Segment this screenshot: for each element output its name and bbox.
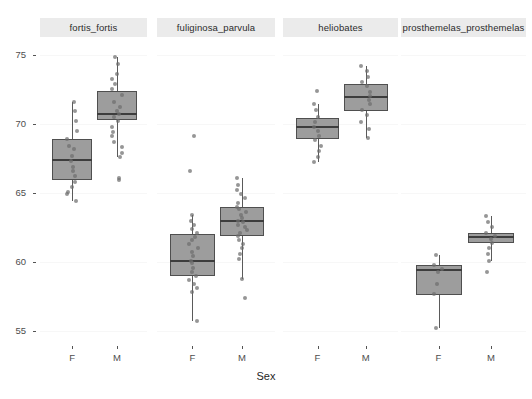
data-point [118,155,122,159]
grid-line [157,55,275,56]
y-tick-label: 55 [0,325,26,336]
data-point [191,266,195,270]
grid-line [157,331,275,332]
data-point [75,129,79,133]
grid-line [40,193,147,194]
data-point [490,225,494,229]
data-point [365,69,369,73]
data-point [71,165,75,169]
grid-line [40,331,147,332]
data-point [236,201,240,205]
data-point [116,62,120,66]
data-point [67,144,71,148]
data-point [312,160,316,164]
facet-strip-label: prosthemelas_prosthemelas [403,22,525,33]
data-point [244,210,248,214]
y-tick-label: 65 [0,187,26,198]
grid-line [283,55,398,56]
data-point [315,89,319,93]
facet-panel-fuliginosa-parvula [157,38,275,345]
y-tick-mark [33,331,36,332]
data-point [360,108,364,112]
data-point [317,149,321,153]
facet-strip-2: fuliginosa_parvula [157,18,275,37]
data-point [196,246,200,250]
data-point [120,145,124,149]
data-point [65,192,69,196]
data-point [190,270,194,274]
x-tick-mark [491,346,492,349]
data-point [120,151,124,155]
data-point [316,155,320,159]
data-point [316,129,320,133]
data-point [74,119,78,123]
x-tick-mark [117,346,118,349]
data-point [110,134,114,138]
data-point [367,127,371,131]
data-point [487,259,491,263]
facet-strip-3: heliobates [283,18,398,37]
data-point [490,241,494,245]
data-point [116,119,120,123]
y-tick-mark [33,193,36,194]
data-point [113,82,117,86]
data-point [243,296,247,300]
x-tick-label: M [359,352,373,363]
y-tick-label: 70 [0,118,26,129]
grid-line [283,262,398,263]
data-point [112,140,116,144]
data-point [359,64,363,68]
grid-line [40,124,147,125]
x-tick-label: M [235,352,249,363]
grid-line [40,55,147,56]
grid-line [283,331,398,332]
facet-strip-label: fuliginosa_parvula [177,22,255,33]
data-point [187,278,191,282]
facet-panel-fortis-fortis [40,38,147,345]
data-point [195,286,199,290]
data-point [73,180,77,184]
y-tick-mark [33,55,36,56]
x-tick-mark [72,346,73,349]
data-point [110,77,114,81]
data-point [312,102,316,106]
data-point [486,252,490,256]
x-tick-label: M [484,352,498,363]
data-point [235,188,239,192]
facet-strip-1: fortis_fortis [40,18,147,37]
data-point [74,199,78,203]
data-point [194,274,198,278]
grid-line [401,124,526,125]
y-tick-label: 60 [0,256,26,267]
data-point [117,178,121,182]
x-tick-label: F [65,352,79,363]
x-tick-label: M [110,352,124,363]
boxplot-median [296,126,340,128]
data-point [316,115,320,119]
y-tick-label: 75 [0,49,26,60]
data-point [112,115,116,119]
data-point [484,214,488,218]
data-point [236,219,240,223]
data-point [319,144,323,148]
data-point [312,125,316,129]
data-point [432,263,436,267]
data-point [485,270,489,274]
data-point [240,246,244,250]
data-point [188,169,192,173]
x-tick-mark [242,346,243,349]
data-point [190,227,194,231]
grid-line [283,193,398,194]
x-axis-title: Sex [0,370,532,382]
data-point [190,238,194,242]
y-tick-mark [33,124,36,125]
x-tick-mark [318,346,319,349]
y-tick-mark [33,262,36,263]
data-point [235,176,239,180]
data-point [192,134,196,138]
data-point [115,72,119,76]
facet-panel-prosthemelas [401,38,526,345]
boxplot-figure: fortis_fortis fuliginosa_parvula helioba… [0,0,532,399]
x-tick-mark [366,346,367,349]
data-point [189,219,193,223]
